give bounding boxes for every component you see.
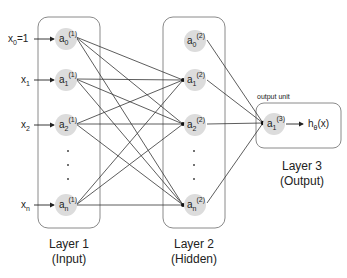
output-unit-caption: output unit	[257, 93, 290, 101]
layer2-subtitle: (Hidden)	[171, 252, 217, 266]
layer1-title: Layer 1	[49, 237, 89, 251]
input-x2: x2	[21, 119, 30, 132]
layer2-nodes: a0(2) a1(2) a2(2) an(2)	[184, 30, 206, 216]
input-arrows	[34, 39, 54, 205]
layer1-subtitle: (Input)	[52, 252, 87, 266]
input-x1: x1	[21, 74, 30, 87]
input-x0: x0=1	[8, 33, 29, 46]
connections-l2-l3	[207, 40, 263, 203]
neural-network-diagram: x0=1 x1 x2 xn a0(1) a1(1) a2(1) an(1)	[0, 0, 347, 278]
layer2-title: Layer 2	[174, 237, 214, 251]
ellipsis-dots-l1	[67, 150, 69, 180]
input-xn: xn	[21, 199, 30, 212]
layer1-nodes: a0(1) a1(1) a2(1) an(1)	[55, 28, 77, 216]
ellipsis-dots-l2	[193, 150, 195, 180]
layer3-subtitle: (Output)	[280, 174, 324, 188]
connections-l1-l2	[76, 37, 183, 205]
layer3-title: Layer 3	[282, 159, 322, 173]
hypothesis-output: hθ(x)	[308, 118, 329, 131]
